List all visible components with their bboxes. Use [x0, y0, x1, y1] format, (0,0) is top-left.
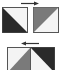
arrow-left-icon	[20, 41, 40, 46]
top-right-square	[33, 7, 59, 33]
bottom-combined-square	[7, 47, 55, 70]
top-left-square	[2, 7, 28, 33]
arrow-right-icon	[20, 1, 40, 6]
